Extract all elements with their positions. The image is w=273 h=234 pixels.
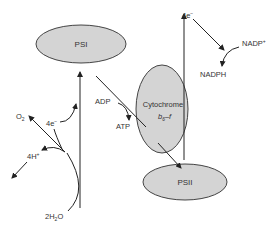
cytochrome-node: Cytochrome b6–f	[136, 65, 188, 153]
water-label: 2H2O	[45, 212, 63, 222]
cytochrome-label: Cytochrome	[143, 100, 183, 109]
psi-node: PSI	[36, 25, 126, 63]
protons-label: 4H+	[27, 151, 40, 161]
nadp-label: NADP+	[242, 38, 266, 48]
z-scheme-diagram: PSI Cytochrome b6–f PSII ADP ATP O2 4e− …	[0, 0, 273, 234]
electrons-top-label: 4e−	[182, 10, 193, 20]
nadph-label: NADPH	[200, 70, 226, 79]
psii-label: PSII	[177, 178, 192, 187]
electrons-join-curve	[54, 129, 62, 149]
atp-label: ATP	[116, 122, 130, 131]
electrons-to-nadp-line	[193, 19, 224, 50]
adp-label: ADP	[95, 97, 110, 106]
electrons-left-label: 4e−	[46, 118, 57, 128]
psii-node: PSII	[143, 164, 227, 200]
adp-to-atp-arrow	[118, 103, 129, 120]
psi-label: PSI	[75, 40, 88, 49]
o2-label: O2	[16, 112, 25, 122]
protons-release-arrow	[12, 162, 27, 178]
cytochrome-b6f-label: b6–f	[158, 112, 172, 122]
electrons-to-line-arrow	[60, 104, 76, 122]
nadp-to-nadph-arrow	[222, 47, 239, 66]
water-split-arc	[67, 153, 79, 211]
